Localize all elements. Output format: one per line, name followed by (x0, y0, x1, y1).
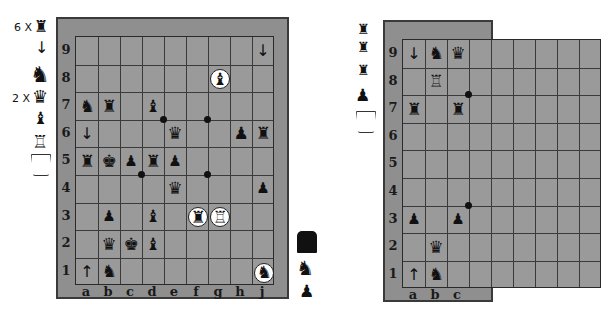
goblet-icon[interactable]: ♜ (357, 39, 370, 55)
dragon-horse-icon[interactable]: ♞ (254, 263, 274, 283)
grid-line (403, 206, 600, 207)
pawn-icon[interactable]: ♟ (165, 151, 185, 171)
queen-bust-icon[interactable]: ♛ (165, 179, 185, 199)
arrow-piece-icon[interactable]: ↓ (35, 38, 48, 57)
goblet-icon[interactable]: ♜ (404, 99, 424, 119)
rank-label: 5 (59, 152, 73, 167)
grid-line (76, 258, 273, 259)
queen-bust-icon[interactable]: ♛ (99, 234, 119, 254)
queen-bust-icon[interactable]: ♛ (448, 44, 468, 64)
rank-label: 3 (386, 211, 400, 226)
intersection-dot (465, 202, 472, 209)
file-label: j (251, 284, 273, 299)
pawn-icon[interactable]: ♟ (253, 179, 273, 199)
goblet-icon[interactable]: ♜ (357, 62, 370, 78)
rank-label: 1 (59, 263, 73, 278)
grid-line (76, 230, 273, 231)
rank-label: 2 (386, 238, 400, 253)
helmet-icon[interactable]: ♝ (143, 96, 163, 116)
rank-label: 6 (386, 128, 400, 143)
helmet-icon[interactable]: ♝ (33, 108, 48, 128)
grid-line (252, 37, 253, 284)
grid-line (76, 92, 273, 93)
rank-label: 1 (386, 266, 400, 281)
dragon-horse-icon[interactable]: ♞ (77, 96, 97, 116)
pawn-icon[interactable]: ♟ (99, 206, 119, 226)
grid-line (469, 40, 470, 287)
knight-icon[interactable]: ♞ (99, 262, 119, 282)
mask-icon[interactable]: ♚ (99, 151, 119, 171)
block-icon[interactable] (297, 231, 317, 253)
board-grid[interactable]: ↓♝♞♜♝↓♛♟♜♜♚♟♜♟♛♟♟♝♜♖♛♚♝↑♞♞ (75, 36, 274, 285)
rank-label: 9 (59, 42, 73, 57)
rank-label: 6 (59, 125, 73, 140)
hanging-piece-icon[interactable]: ♟ (231, 124, 251, 144)
crown-icon[interactable]: ♚ (121, 234, 141, 254)
hanging-piece-icon[interactable]: ♟ (355, 85, 370, 105)
grid-line (579, 40, 580, 287)
arrow-piece-icon[interactable]: ↑ (404, 265, 424, 285)
goblet-icon[interactable]: ♜ (253, 124, 273, 144)
helmet-icon[interactable]: ♝ (143, 206, 163, 226)
file-label: b (424, 287, 446, 302)
bishop-icon[interactable]: ♝ (210, 69, 230, 89)
grid-line (208, 37, 209, 284)
grid-line (76, 120, 273, 121)
pawn-icon[interactable]: ♟ (448, 209, 468, 229)
file-label: a (402, 287, 424, 302)
grid-line (76, 147, 273, 148)
pawn-icon[interactable]: ♟ (121, 151, 141, 171)
grid-line (403, 95, 600, 96)
helmet-icon[interactable]: ♝ (143, 234, 163, 254)
grid-line (230, 37, 231, 284)
intersection-dot (160, 116, 167, 123)
queen-bust-icon[interactable]: ♛ (426, 237, 446, 257)
knight-icon[interactable]: ♞ (426, 265, 446, 285)
goblet-icon[interactable]: ♜ (77, 151, 97, 171)
board-grid[interactable]: ↓♞♛♖♜♜♟♟♛↑♞ (402, 39, 601, 288)
grid-line (491, 40, 492, 287)
goblet-icon[interactable]: ♜ (34, 17, 48, 36)
pawn-icon[interactable]: ♟ (299, 281, 314, 301)
queen-bust-icon[interactable]: ♛ (165, 124, 185, 144)
arrow-piece-icon[interactable]: ↑ (77, 262, 97, 282)
file-label: e (163, 284, 185, 299)
goblet-icon[interactable]: ♜ (357, 21, 370, 37)
goblet-icon[interactable]: ♜ (188, 207, 208, 227)
arrow-piece-icon[interactable]: ↓ (77, 124, 97, 144)
tower-icon[interactable]: ♖ (210, 207, 230, 227)
file-label: c (119, 284, 141, 299)
empty-cup-icon[interactable] (31, 154, 51, 176)
grid-line (403, 150, 600, 151)
file-label: a (75, 284, 97, 299)
pawn-icon[interactable]: ♟ (404, 209, 424, 229)
rank-label: 4 (386, 183, 400, 198)
rank-label: 9 (386, 45, 400, 60)
arrow-piece-icon[interactable]: ↓ (253, 41, 273, 61)
arrow-piece-icon[interactable]: ↓ (404, 44, 424, 64)
reserve-count: 6 X (14, 21, 32, 34)
grid-line (535, 40, 536, 287)
dragon-horse-icon[interactable]: ♞ (426, 44, 446, 64)
file-label: b (97, 284, 119, 299)
rank-label: 4 (59, 180, 73, 195)
goblet-icon[interactable]: ♜ (143, 151, 163, 171)
grid-line (447, 40, 448, 287)
grid-line (186, 37, 187, 284)
tower-icon[interactable]: ♖ (426, 71, 446, 91)
empty-cup-icon[interactable] (356, 111, 376, 133)
intersection-dot (204, 171, 211, 178)
queen-bust-icon[interactable]: ♛ (32, 86, 48, 107)
dragon-horse-icon[interactable]: ♞ (30, 62, 50, 87)
goblet-icon[interactable]: ♜ (99, 96, 119, 116)
grid-line (403, 261, 600, 262)
rank-label: 8 (59, 70, 73, 85)
file-label: h (229, 284, 251, 299)
goblet-icon[interactable]: ♜ (448, 99, 468, 119)
knight-icon[interactable]: ♞ (296, 256, 314, 280)
rank-label: 5 (386, 155, 400, 170)
tower-icon[interactable]: ♖ (32, 131, 48, 152)
grid-line (403, 233, 600, 234)
file-label: d (141, 284, 163, 299)
file-label: c (446, 287, 468, 302)
